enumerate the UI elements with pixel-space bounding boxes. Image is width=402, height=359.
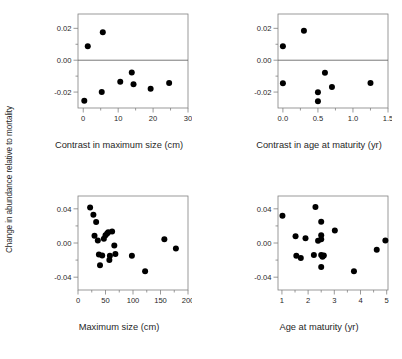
svg-text:10: 10	[114, 114, 122, 123]
data-point	[111, 243, 117, 249]
data-point	[93, 219, 99, 225]
svg-text:3: 3	[332, 296, 336, 305]
data-point	[87, 205, 93, 211]
data-point	[90, 212, 96, 218]
data-point	[318, 236, 324, 242]
svg-text:100: 100	[127, 296, 140, 305]
data-point	[318, 264, 324, 270]
svg-text:0.02: 0.02	[57, 24, 72, 33]
svg-text:0.00: 0.00	[57, 56, 72, 65]
data-point	[81, 98, 87, 104]
data-point	[303, 235, 309, 241]
data-point	[382, 237, 388, 243]
svg-text:1: 1	[280, 296, 284, 305]
data-point	[301, 28, 307, 34]
data-point	[129, 69, 135, 75]
svg-text:0.00: 0.00	[257, 239, 272, 248]
x-axis-label-top-left: Contrast in maximum size (cm)	[24, 140, 214, 150]
data-point	[298, 255, 304, 261]
data-point	[142, 268, 148, 274]
data-point	[117, 79, 123, 85]
svg-text:-0.02: -0.02	[254, 88, 271, 97]
data-point	[95, 237, 101, 243]
data-point	[374, 247, 380, 253]
svg-text:2: 2	[306, 296, 310, 305]
scatter-plot-top-left: 01020300.020.00-0.02	[46, 8, 192, 126]
shared-y-axis-label: Change in abundance relative to mortalit…	[1, 0, 17, 359]
svg-text:0: 0	[76, 296, 80, 305]
data-point	[280, 43, 286, 49]
svg-text:0: 0	[81, 114, 85, 123]
svg-text:0.04: 0.04	[57, 205, 72, 214]
panel-bottom-left: 0501001502000.040.00-0.04	[46, 190, 192, 308]
data-point	[97, 262, 103, 268]
data-point	[166, 80, 172, 86]
data-point	[99, 89, 105, 95]
data-point	[315, 89, 321, 95]
x-axis-label-bottom-right: Age at maturity (yr)	[224, 322, 402, 332]
data-point	[293, 233, 299, 239]
svg-text:20: 20	[149, 114, 157, 123]
data-point	[280, 80, 286, 86]
svg-text:0.02: 0.02	[257, 24, 272, 33]
data-point	[173, 246, 179, 252]
svg-text:-0.04: -0.04	[254, 273, 271, 282]
svg-text:-0.02: -0.02	[54, 88, 71, 97]
data-point	[311, 252, 317, 258]
svg-text:0.5: 0.5	[313, 114, 324, 123]
svg-text:150: 150	[154, 296, 167, 305]
data-point	[109, 228, 115, 234]
svg-text:1.0: 1.0	[348, 114, 359, 123]
data-point	[332, 228, 338, 234]
data-point	[99, 252, 105, 258]
scatter-plot-bottom-left: 0501001502000.040.00-0.04	[46, 190, 192, 308]
figure-container: Change in abundance relative to mortalit…	[0, 0, 402, 359]
data-point	[321, 252, 327, 258]
data-point	[329, 84, 335, 90]
svg-text:0.00: 0.00	[57, 239, 72, 248]
data-point	[100, 29, 106, 35]
svg-text:30: 30	[184, 114, 192, 123]
data-point	[161, 236, 167, 242]
data-point	[129, 253, 135, 259]
svg-text:4: 4	[358, 296, 362, 305]
x-axis-label-bottom-left: Maximum size (cm)	[24, 322, 214, 332]
svg-text:1.5: 1.5	[383, 114, 392, 123]
data-point	[112, 251, 118, 257]
svg-text:0.0: 0.0	[278, 114, 289, 123]
data-point	[131, 81, 137, 87]
data-point	[107, 253, 113, 259]
svg-text:5: 5	[385, 296, 389, 305]
svg-text:50: 50	[101, 296, 109, 305]
svg-text:0.00: 0.00	[257, 56, 272, 65]
data-point	[322, 70, 328, 76]
svg-text:200: 200	[182, 296, 192, 305]
data-point	[279, 213, 285, 219]
data-point	[318, 219, 324, 225]
svg-text:0.04: 0.04	[257, 205, 272, 214]
data-point	[315, 98, 321, 104]
x-axis-label-top-right: Contrast in age at maturity (yr)	[224, 140, 402, 150]
svg-text:-0.04: -0.04	[54, 273, 71, 282]
data-point	[367, 80, 373, 86]
data-point	[312, 204, 318, 210]
data-point	[351, 268, 357, 274]
panel-top-left: 01020300.020.00-0.02	[46, 8, 192, 126]
panel-top-right: 0.00.51.01.50.020.00-0.02	[246, 8, 392, 126]
data-point	[148, 86, 154, 92]
scatter-plot-top-right: 0.00.51.01.50.020.00-0.02	[246, 8, 392, 126]
panel-bottom-right: 123450.040.00-0.04	[246, 190, 392, 308]
scatter-plot-bottom-right: 123450.040.00-0.04	[246, 190, 392, 308]
data-point	[85, 43, 91, 49]
